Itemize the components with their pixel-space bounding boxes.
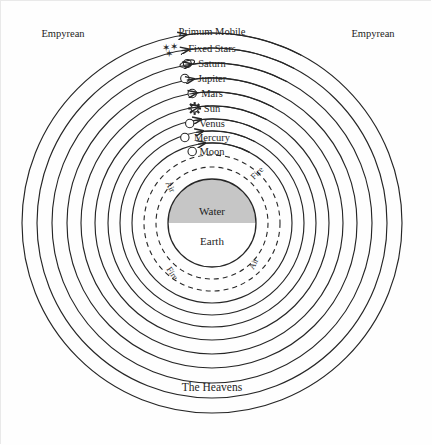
sphere-label-sun: Sun xyxy=(204,103,221,114)
circle-icon-moon xyxy=(188,147,196,155)
circle-icon-mercury xyxy=(181,133,189,141)
circle-icon-venus xyxy=(186,119,194,127)
cosmos-diagram: WaterEarthFireAirAirFirePrimum MobileFix… xyxy=(1,1,432,445)
circle-icon-jupiter xyxy=(181,74,189,82)
sphere-label-primum-mobile: Primum Mobile xyxy=(179,26,246,37)
bottom-label-the-heavens: The Heavens xyxy=(182,381,243,393)
sphere-label-mercury: Mercury xyxy=(194,132,231,143)
corner-label-empyrean-right: Empyrean xyxy=(351,28,395,39)
core-label-water: Water xyxy=(199,205,225,217)
svg-text:✶: ✶ xyxy=(165,48,173,59)
sun-icon-sun xyxy=(188,102,201,115)
core-label-earth: Earth xyxy=(200,235,224,247)
sphere-label-mars: Mars xyxy=(201,88,223,99)
corner-label-empyrean-left: Empyrean xyxy=(41,28,85,39)
sphere-label-moon: Moon xyxy=(199,146,225,157)
